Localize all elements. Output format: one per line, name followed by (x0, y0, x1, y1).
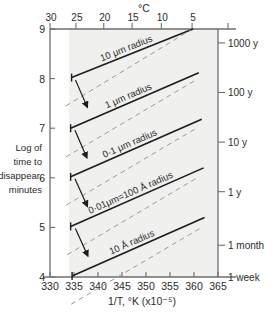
y-tick-label-8: 8 (39, 73, 45, 85)
x-tick-label-350: 350 (137, 280, 155, 292)
y-tick-label-5: 5 (39, 221, 45, 233)
y-tick-label-7: 7 (39, 122, 45, 134)
x-axis-label: 1/T, °K (x10⁻⁵) (108, 295, 176, 307)
right-tick-label-4: 1 month (228, 240, 264, 251)
y-axis-label-line-2: disappear, (0, 170, 42, 181)
top-tick-label-10: 10 (157, 12, 169, 23)
y-axis-label-line-1: time to (13, 156, 42, 167)
top-tick-label-20: 20 (99, 12, 111, 23)
x-tick-label-340: 340 (89, 280, 107, 292)
right-tick-label-5: 1 week (228, 272, 261, 283)
x-tick-label-365: 365 (209, 280, 227, 292)
chart-figure: 3303353403453503553603651/T, °K (x10⁻⁵)4… (0, 0, 274, 319)
y-axis-label-line-3: minutes (9, 184, 43, 195)
y-tick-label-4: 4 (39, 271, 45, 283)
x-tick-label-360: 360 (185, 280, 203, 292)
y-tick-label-9: 9 (39, 23, 45, 35)
x-tick-label-355: 355 (161, 280, 179, 292)
right-tick-label-3: 1 y (228, 187, 241, 198)
top-tick-label-15: 15 (128, 12, 140, 23)
x-tick-label-335: 335 (65, 280, 83, 292)
right-tick-label-2: 10 y (228, 137, 247, 148)
top-tick-label-25: 25 (71, 12, 83, 23)
top-axis-label: °C (138, 2, 150, 14)
top-tick-label-5: 5 (190, 12, 196, 23)
x-tick-label-345: 345 (113, 280, 131, 292)
y-axis-label-line-0: Log of (16, 142, 43, 153)
top-tick-label-30: 30 (45, 12, 57, 23)
right-tick-label-1: 100 y (228, 87, 252, 98)
right-tick-label-0: 1000 y (228, 38, 258, 49)
evaporation-time-chart: 3303353403453503553603651/T, °K (x10⁻⁵)4… (0, 0, 274, 319)
